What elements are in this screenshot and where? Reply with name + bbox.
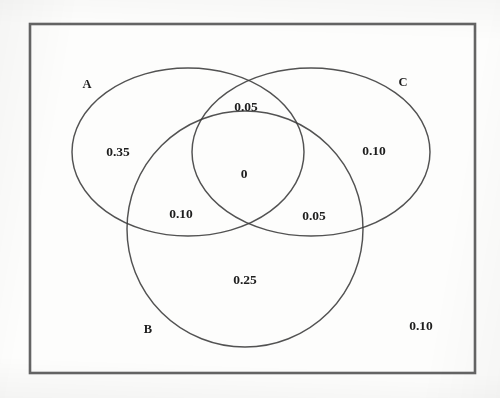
venn-diagram-canvas: A C B 0.35 0.10 0.25 0.05 0.10 0.05 0 0.… (0, 0, 500, 398)
region-value-c-only: 0.10 (362, 143, 386, 158)
region-value-b-only: 0.25 (233, 272, 257, 287)
set-label-c: C (398, 75, 407, 89)
region-value-a-and-b-and-c: 0 (241, 166, 248, 181)
set-b-circle (127, 111, 363, 347)
region-value-b-and-c-only: 0.05 (302, 208, 326, 223)
set-label-a: A (82, 77, 91, 91)
region-value-a-and-c-only: 0.05 (234, 99, 258, 114)
region-value-a-and-b-only: 0.10 (169, 206, 193, 221)
set-label-b: B (144, 322, 152, 336)
region-value-a-only: 0.35 (106, 144, 130, 159)
region-value-outside: 0.10 (409, 318, 433, 333)
venn-diagram-figure: A C B 0.35 0.10 0.25 0.05 0.10 0.05 0 0.… (0, 0, 500, 398)
